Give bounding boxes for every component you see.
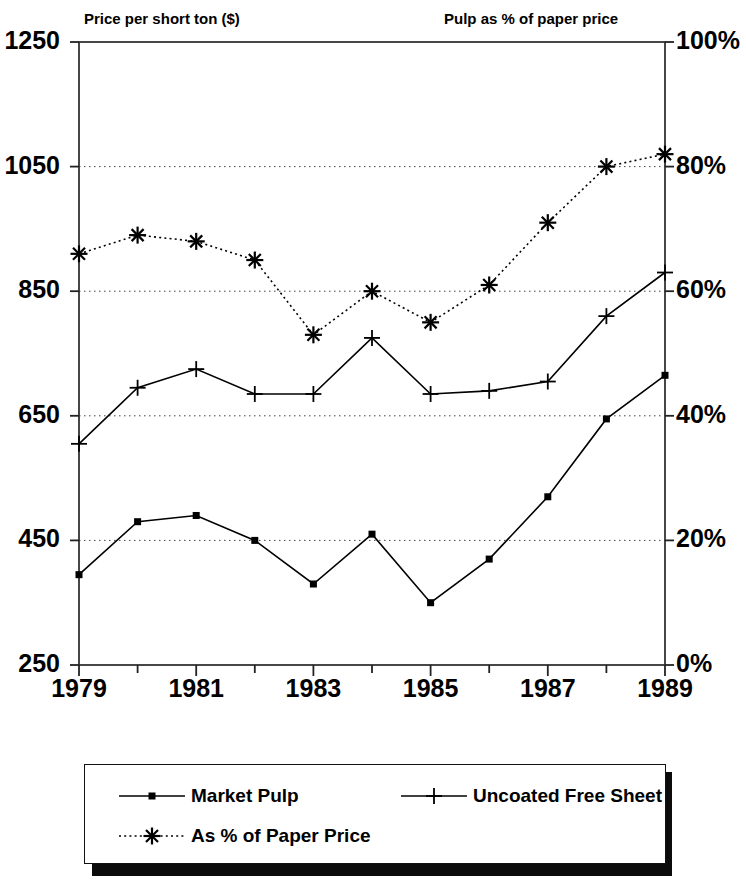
axis-tick-marks <box>70 42 674 676</box>
chart-plot-area <box>0 0 746 896</box>
chart-legend: Market PulpUncoated Free SheetAs % of Pa… <box>84 764 666 864</box>
data-series <box>71 146 674 607</box>
square-marker-icon <box>113 783 191 809</box>
plot-frame <box>79 42 665 665</box>
legend-item[interactable]: Market Pulp <box>113 783 299 809</box>
asterisk-marker-icon <box>113 823 191 849</box>
legend-item-label: Uncoated Free Sheet <box>473 785 662 807</box>
legend-item[interactable]: Uncoated Free Sheet <box>395 783 662 809</box>
chart-page: Price per short ton ($) Pulp as % of pap… <box>0 0 746 896</box>
legend-item-label: Market Pulp <box>191 785 299 807</box>
legend-item-label: As % of Paper Price <box>191 825 371 847</box>
plus-marker-icon <box>395 783 473 809</box>
gridlines <box>79 167 665 541</box>
legend-item[interactable]: As % of Paper Price <box>113 823 371 849</box>
series-as-of-paper-price <box>71 146 674 344</box>
series-market-pulp <box>76 372 669 606</box>
